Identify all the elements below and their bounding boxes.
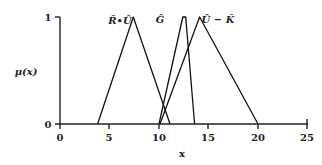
x-axis-label: x (179, 148, 186, 159)
chart-canvas: 1 0 0 5 10 15 20 25 x μ(x) R̂•Û Ĝ Û − K̂ (0, 0, 322, 165)
series-label-g: Ĝ (156, 14, 165, 25)
y-tick-label-0: 0 (45, 119, 52, 130)
series-u-minus-k (160, 17, 258, 124)
series-label-u-minus-k: Û − K̂ (202, 14, 236, 25)
x-tick-label: 0 (57, 132, 64, 143)
series-label-r-times-u: R̂•Û (107, 15, 133, 26)
membership-function-chart: 1 0 0 5 10 15 20 25 x μ(x) R̂•Û Ĝ Û − K̂ (0, 0, 322, 165)
x-tick-label: 10 (152, 132, 166, 143)
x-tick-label: 5 (106, 132, 113, 143)
axes (55, 17, 308, 129)
x-tick-label: 15 (201, 132, 215, 143)
y-tick-label-1: 1 (45, 12, 52, 23)
y-axis-label: μ(x) (15, 66, 38, 77)
x-tick-label: 25 (300, 132, 314, 143)
series-r-times-u (98, 17, 170, 124)
x-tick-label: 20 (251, 132, 265, 143)
